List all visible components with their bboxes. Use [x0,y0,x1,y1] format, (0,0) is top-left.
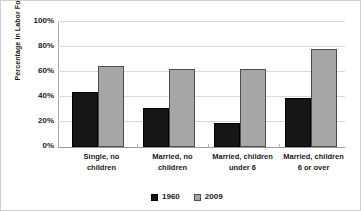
bar-2009-married-children-6-or-over[interactable] [311,49,337,147]
bar-group-married-children-under-6 [208,21,271,147]
y-axis-tick-labels: 100% 80% 60% 40% 20% 0% [18,1,54,148]
category-line-2: 6 or over [267,163,360,174]
bar-1960-married-children-6-or-over[interactable] [285,98,311,147]
legend-item-1960[interactable]: 1960 [151,193,180,201]
bar-2009-married-no-children[interactable] [169,69,195,147]
bar-group-married-children-6-or-over [279,21,342,147]
bar-1960-single-no-children[interactable] [72,92,98,147]
y-axis-line [58,21,59,148]
x-axis-category-labels: Single, no children Married, no children… [58,152,345,180]
y-tick-20: 20% [20,117,54,125]
y-tick-0: 0% [20,142,54,150]
legend-label-2009: 2009 [205,193,223,201]
chart-legend: 1960 2009 [151,191,223,203]
bar-chart-figure: Percentage in Labor Force 100% 80% 60% 4… [0,0,361,211]
y-tick-60: 60% [20,67,54,75]
bar-group-married-no-children [137,21,200,147]
bar-2009-single-no-children[interactable] [98,66,124,147]
bar-1960-married-no-children[interactable] [143,108,169,147]
bar-2009-married-children-under-6[interactable] [240,69,266,147]
bar-1960-married-children-under-6[interactable] [214,123,240,147]
category-line-1: Married, children [267,152,360,163]
legend-swatch-icon-2009 [194,194,201,201]
plot-area [58,21,345,148]
category-label-married-children-6-or-over: Married, children 6 or over [267,152,360,173]
x-axis-baseline [58,147,345,148]
y-tick-80: 80% [20,42,54,50]
bar-group-single-no-children [66,21,129,147]
y-tick-100: 100% [20,17,54,25]
legend-item-2009[interactable]: 2009 [194,193,223,201]
legend-swatch-icon-1960 [151,194,158,201]
legend-label-1960: 1960 [162,193,180,201]
y-tick-40: 40% [20,92,54,100]
